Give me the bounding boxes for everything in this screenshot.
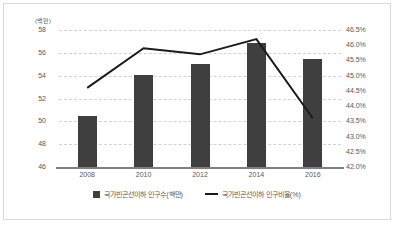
legend-item[interactable]: 국가빈곤선이하 인구수(백만) — [93, 189, 183, 199]
x-axis-tick: 2010 — [116, 171, 172, 178]
chart-legend: 국가빈곤선이하 인구수(백만)국가빈곤선이하 인구비율(%) — [4, 189, 390, 199]
legend-square-icon — [93, 191, 100, 198]
y-axis-right-tick: 42.5% — [346, 148, 380, 155]
legend-item[interactable]: 국가빈곤선이하 인구비율(%) — [205, 189, 301, 199]
y-axis-left-tick: 52 — [22, 95, 46, 102]
y-axis-right-tick: 44.0% — [346, 102, 380, 109]
y-axis-left-tick: 46 — [22, 163, 46, 170]
legend-line-icon — [205, 193, 218, 195]
x-axis-baseline — [56, 167, 344, 169]
line-series — [59, 30, 341, 167]
plot-area — [59, 30, 341, 167]
y-axis-right-tick: 43.0% — [346, 133, 380, 140]
y-axis-right-tick: 46.5% — [346, 26, 380, 33]
x-axis-tick: 2016 — [285, 171, 341, 178]
y-axis-right-tick: 46.0% — [346, 41, 380, 48]
legend-label: 국가빈곤선이하 인구수(백만) — [104, 189, 183, 199]
x-axis-tick: 2012 — [172, 171, 228, 178]
y-axis-right-tick: 45.5% — [346, 56, 380, 63]
legend-label: 국가빈곤선이하 인구비율(%) — [222, 189, 301, 199]
y-axis-right-tick: 43.5% — [346, 117, 380, 124]
chart-container: (백만) 58565452504846 46.5%46.0%45.5%45.0%… — [3, 3, 391, 220]
line-path — [87, 39, 313, 118]
y-axis-unit-label: (백만) — [35, 16, 51, 25]
y-axis-left-tick: 54 — [22, 72, 46, 79]
y-axis-left-tick: 50 — [22, 117, 46, 124]
y-axis-right-tick: 42.0% — [346, 163, 380, 170]
y-axis-right-tick: 45.0% — [346, 72, 380, 79]
y-axis-left-tick: 58 — [22, 26, 46, 33]
x-axis-tick: 2008 — [59, 171, 115, 178]
y-axis-right-tick: 44.5% — [346, 87, 380, 94]
y-axis-left-tick: 48 — [22, 140, 46, 147]
y-axis-left-tick: 56 — [22, 49, 46, 56]
x-axis-tick: 2014 — [228, 171, 284, 178]
